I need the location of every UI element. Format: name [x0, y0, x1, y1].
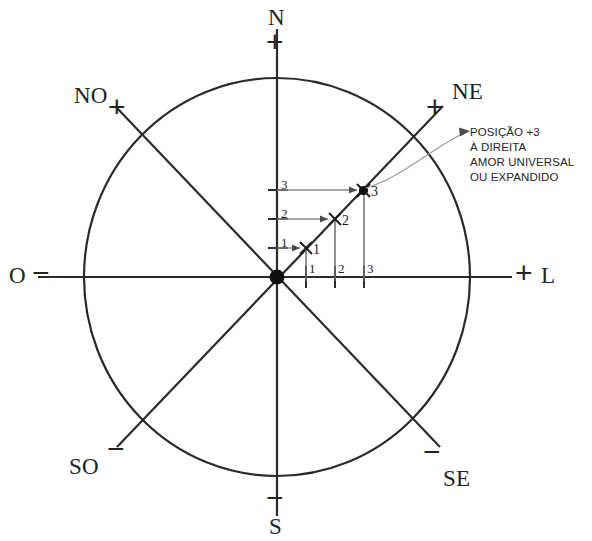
annotation-line-1: POSIÇÃO +3 — [470, 125, 592, 140]
annotation-leader-line — [366, 134, 462, 188]
tick-label-vertical-2: 2 — [281, 207, 288, 220]
annotation-line-4: OU EXPANDIDO — [470, 170, 592, 185]
compass-sign-southeast: − — [423, 437, 441, 467]
annotation-line-3: AMOR UNIVERSAL — [470, 155, 592, 170]
annotation-arrow-head — [459, 128, 470, 137]
projection-arrow-2 — [320, 216, 328, 223]
compass-label-southwest: SO — [69, 455, 99, 478]
compass-label-northeast: NE — [452, 80, 483, 103]
projection-arrow-3 — [349, 187, 357, 194]
compass-sign-northwest: + — [108, 92, 126, 122]
tick-label-horizontal-3: 3 — [367, 262, 374, 275]
compass-sign-south: − — [266, 483, 284, 513]
origin-point — [270, 270, 285, 285]
annotation-line-2: À DIREITA — [470, 140, 592, 155]
compass-label-east: L — [541, 264, 555, 287]
compass-diagram: N + − S O − + L NO + + NE SO − − SE 3 2 … — [0, 0, 592, 541]
compass-sign-west: − — [32, 258, 50, 288]
point-label-2: 2 — [342, 214, 349, 228]
point-marker-3 — [357, 184, 370, 197]
tick-label-horizontal-2: 2 — [338, 262, 345, 275]
annotation-text-block: POSIÇÃO +3 À DIREITA AMOR UNIVERSAL OU E… — [470, 125, 592, 185]
compass-sign-east: + — [515, 258, 533, 288]
compass-label-northwest: NO — [74, 84, 108, 107]
point-label-1: 1 — [313, 243, 320, 257]
point-label-3: 3 — [371, 185, 378, 199]
compass-label-southeast: SE — [443, 467, 470, 490]
compass-label-south: S — [269, 515, 282, 538]
projection-arrow-1 — [292, 245, 300, 252]
tick-label-vertical-3: 3 — [281, 178, 288, 191]
tick-label-vertical-1: 1 — [281, 236, 288, 249]
compass-sign-northeast: + — [426, 92, 444, 122]
compass-sign-north: + — [266, 27, 284, 57]
tick-label-horizontal-1: 1 — [309, 262, 316, 275]
compass-label-west: O — [9, 264, 26, 287]
compass-sign-southwest: − — [107, 434, 125, 464]
